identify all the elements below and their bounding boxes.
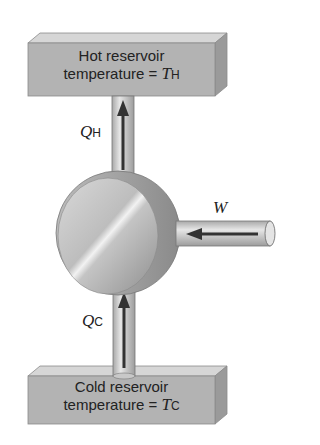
heat-pump-device [56,171,180,295]
heat-hot-pipe [112,96,134,174]
hot-reservoir-label: Hot reservoir temperature = TH [28,47,215,84]
cold-reservoir-label: Cold reservoir temperature = TC [28,378,215,415]
heat-cold-label: QC [82,312,103,331]
cold-reservoir-temperature: temperature = TC [28,396,215,415]
cold-reservoir-title: Cold reservoir [28,378,215,396]
hot-reservoir-temperature: temperature = TH [28,65,215,84]
heat-hot-label: QH [80,123,101,142]
hot-reservoir-title: Hot reservoir [28,47,215,65]
work-label: W [213,199,227,217]
work-pipe [176,221,275,246]
